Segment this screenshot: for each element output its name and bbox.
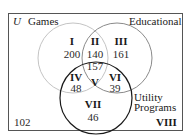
- region-V-count: 157: [87, 61, 104, 72]
- region-I-count: 200: [64, 49, 81, 60]
- region-VII-label: VII: [85, 99, 102, 110]
- region-II-count: 140: [87, 49, 104, 60]
- region-VI-count: 39: [110, 83, 121, 94]
- region-IV-count: 48: [71, 83, 82, 94]
- region-III-count: 161: [113, 49, 130, 60]
- educational-label: Educational: [129, 16, 182, 27]
- region-VIII-label: VIII: [156, 117, 177, 128]
- region-VII-count: 46: [88, 112, 99, 123]
- utility-label-line2: Programs: [134, 102, 176, 113]
- region-II-label: II: [91, 36, 100, 47]
- region-V-label: V: [91, 77, 99, 88]
- games-label: Games: [28, 16, 59, 27]
- region-III-label: III: [115, 36, 128, 47]
- region-I-label: I: [70, 36, 74, 47]
- region-VIII-count: 102: [14, 117, 31, 128]
- universe-label: U: [13, 16, 21, 27]
